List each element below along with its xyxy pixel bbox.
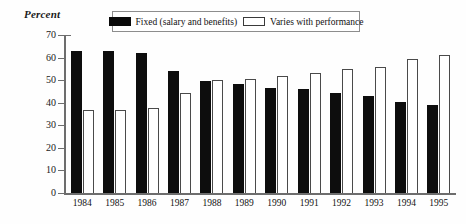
y-axis-tick-label: 20 <box>8 142 56 153</box>
bar-group <box>325 35 357 193</box>
bar-varies <box>439 55 450 193</box>
legend-swatch-fixed-icon <box>109 17 131 26</box>
bar-varies <box>277 76 288 193</box>
y-axis-tick <box>58 35 65 36</box>
bar-group <box>293 35 325 193</box>
bar-groups <box>66 35 455 193</box>
bar-fixed <box>395 102 406 193</box>
y-axis-tick <box>58 193 65 194</box>
chart-container: Percent Fixed (salary and benefits) Vari… <box>0 0 466 224</box>
bar-varies <box>148 108 159 193</box>
y-axis-tick-label: 10 <box>8 164 56 175</box>
bar-varies <box>83 110 94 194</box>
bar-group <box>228 35 260 193</box>
chart-legend: Fixed (salary and benefits) Varies with … <box>112 11 360 32</box>
y-axis-tick <box>58 170 65 171</box>
x-axis-tick-label: 1988 <box>196 198 228 208</box>
bar-fixed <box>330 93 341 193</box>
y-axis-tick-label: 60 <box>8 52 56 63</box>
bar-varies <box>342 69 353 193</box>
y-axis-tick <box>58 103 65 104</box>
bar-fixed <box>71 51 82 193</box>
y-axis-tick <box>58 125 65 126</box>
bar-fixed <box>233 84 244 193</box>
x-axis-line <box>64 193 456 195</box>
bar-varies <box>212 80 223 193</box>
bar-group <box>358 35 390 193</box>
y-axis-tick-label: 30 <box>8 119 56 130</box>
y-axis-tick-label: 70 <box>8 29 56 40</box>
legend-item-varies: Varies with performance <box>243 17 363 27</box>
y-axis-tick-label: 50 <box>8 74 56 85</box>
y-axis-tick <box>58 148 65 149</box>
bar-group <box>196 35 228 193</box>
x-axis-tick-label: 1990 <box>261 198 293 208</box>
legend-swatch-varies-icon <box>243 17 265 26</box>
bar-fixed <box>265 88 276 193</box>
bar-varies <box>407 59 418 193</box>
bar-fixed <box>200 81 211 193</box>
bar-group <box>423 35 455 193</box>
legend-label-varies: Varies with performance <box>270 17 363 27</box>
x-axis-tick-label: 1984 <box>66 198 98 208</box>
x-axis-tick-label: 1994 <box>390 198 422 208</box>
x-axis-tick-label: 1991 <box>293 198 325 208</box>
x-axis-tick-label: 1995 <box>423 198 455 208</box>
x-axis-tick-label: 1986 <box>131 198 163 208</box>
bar-fixed <box>136 53 147 193</box>
bar-group <box>163 35 195 193</box>
bar-varies <box>245 79 256 193</box>
bar-varies <box>115 110 126 194</box>
bar-varies <box>310 73 321 193</box>
x-axis-tick-label: 1985 <box>98 198 130 208</box>
x-axis-tick-label: 1992 <box>325 198 357 208</box>
x-axis-labels: 1984198519861987198819891990199119921993… <box>66 198 455 208</box>
bar-group <box>390 35 422 193</box>
legend-label-fixed: Fixed (salary and benefits) <box>136 17 238 27</box>
y-axis-tick-label: 40 <box>8 97 56 108</box>
y-axis-tick-label: 0 <box>8 187 56 198</box>
y-axis-tick <box>58 58 65 59</box>
x-axis-tick-label: 1989 <box>228 198 260 208</box>
bar-fixed <box>363 96 374 193</box>
bar-varies <box>180 93 191 193</box>
bar-group <box>98 35 130 193</box>
legend-item-fixed: Fixed (salary and benefits) <box>109 17 238 27</box>
x-axis-tick-label: 1987 <box>163 198 195 208</box>
bar-fixed <box>103 51 114 193</box>
x-axis-tick-label: 1993 <box>358 198 390 208</box>
bar-varies <box>375 67 386 193</box>
y-axis-title: Percent <box>24 8 60 20</box>
bar-fixed <box>298 89 309 193</box>
bar-group <box>66 35 98 193</box>
bar-fixed <box>427 105 438 193</box>
y-axis-tick <box>58 80 65 81</box>
bar-group <box>131 35 163 193</box>
bar-group <box>261 35 293 193</box>
bar-fixed <box>168 71 179 193</box>
